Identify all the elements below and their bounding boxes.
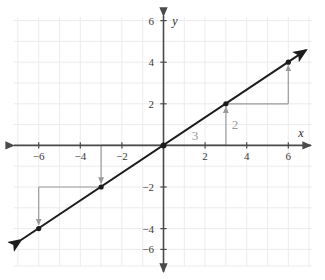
- y-tick-label-6: 6: [149, 15, 155, 27]
- x-tick-label-2: 2: [202, 150, 208, 162]
- data-point--3--2: [99, 184, 104, 189]
- y-axis-label: y: [171, 14, 178, 28]
- rise-label: 2: [232, 117, 239, 132]
- y-tick-label--4: −4: [142, 223, 154, 235]
- x-tick-label-6: 6: [286, 150, 292, 162]
- y-tick-label--6: −6: [142, 243, 154, 255]
- data-point-6-4: [286, 60, 291, 65]
- y-tick-label--2: −2: [142, 181, 154, 193]
- x-tick-label--6: −6: [33, 150, 45, 162]
- x-axis-label: x: [297, 126, 304, 140]
- x-tick-label--2: −2: [116, 150, 128, 162]
- data-point-0-0: [161, 142, 167, 148]
- x-tick-label--4: −4: [74, 150, 86, 162]
- y-tick-label-4: 4: [149, 56, 155, 68]
- run-label: 3: [192, 128, 199, 143]
- data-point--6--4: [36, 226, 41, 231]
- y-tick-label-2: 2: [149, 98, 155, 110]
- graph-canvas: −6 −4 −2 2 4 6 6 4 2 −2 −4 −6 x y 3 2: [0, 0, 325, 280]
- data-point-3-2: [223, 101, 228, 106]
- coordinate-plane-figure: −6 −4 −2 2 4 6 6 4 2 −2 −4 −6 x y 3 2: [0, 0, 325, 280]
- x-tick-label-4: 4: [244, 150, 250, 162]
- figure-background: [0, 0, 325, 280]
